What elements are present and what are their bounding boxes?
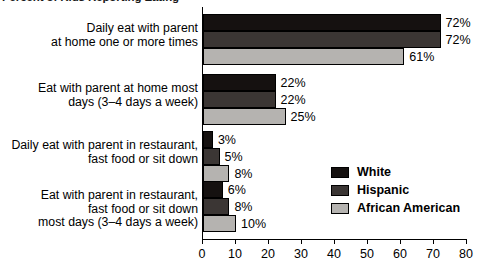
x-tick-label-50: 50: [360, 247, 374, 261]
x-tick-label-20: 20: [261, 247, 275, 261]
bar-value-group3-series0: 6%: [228, 183, 246, 197]
bar-group3-series2: [203, 215, 236, 232]
bar-value-group0-series2: 61%: [409, 50, 434, 64]
bar-group2-series1: [203, 148, 220, 165]
bar-value-group3-series1: 8%: [234, 200, 252, 214]
legend-label-white: White: [357, 165, 391, 179]
legend-item-hispanic: Hispanic: [331, 181, 460, 199]
legend-item-african-american: African American: [331, 199, 460, 217]
bar-group1-series1: [203, 91, 276, 108]
bar-value-group1-series0: 22%: [281, 76, 306, 90]
bar-group2-series0: [203, 131, 213, 148]
bar-value-group2-series0: 3%: [218, 133, 236, 147]
x-tick-60: [400, 239, 401, 244]
x-tick-label-30: 30: [294, 247, 308, 261]
bar-value-group0-series0: 72%: [446, 16, 471, 30]
category-label-2: Daily eat with parent in restaurant, fas…: [11, 139, 198, 166]
bar-value-group2-series1: 5%: [225, 150, 243, 164]
bar-group1-series0: [203, 74, 276, 91]
x-tick-label-40: 40: [327, 247, 341, 261]
x-tick-20: [268, 239, 269, 244]
x-tick-label-0: 0: [199, 247, 206, 261]
legend-item-white: White: [331, 163, 460, 181]
legend-swatch-icon-hispanic: [331, 185, 349, 196]
bar-value-group2-series2: 8%: [234, 167, 252, 181]
category-label-3: Eat with parent in restaurant, fast food…: [38, 189, 198, 230]
bar-value-group0-series1: 72%: [446, 33, 471, 47]
legend-swatch-icon-white: [331, 167, 349, 178]
category-label-0: Daily eat with parent at home one or mor…: [51, 22, 198, 49]
bar-group3-series0: [203, 181, 223, 198]
bar-value-group1-series2: 25%: [291, 110, 316, 124]
x-tick-0: [202, 239, 203, 244]
bar-group0-series0: [203, 14, 441, 31]
x-tick-40: [334, 239, 335, 244]
bar-value-group1-series1: 22%: [281, 93, 306, 107]
x-tick-10: [235, 239, 236, 244]
x-tick-70: [433, 239, 434, 244]
x-tick-80: [466, 239, 467, 244]
x-tick-label-60: 60: [393, 247, 407, 261]
x-tick-label-70: 70: [426, 247, 440, 261]
bar-group3-series1: [203, 198, 229, 215]
x-tick-label-10: 10: [228, 247, 242, 261]
chart-title: Percent of Kids Reporting Eating: [2, 0, 179, 3]
x-tick-30: [301, 239, 302, 244]
category-label-1: Eat with parent at home most days (3–4 d…: [38, 82, 198, 109]
bar-group1-series2: [203, 108, 286, 125]
bar-group0-series1: [203, 31, 441, 48]
legend-label-african-american: African American: [357, 201, 460, 215]
bar-group2-series2: [203, 165, 229, 182]
legend-swatch-icon-african-american: [331, 203, 349, 214]
x-tick-label-80: 80: [459, 247, 473, 261]
bar-value-group3-series2: 10%: [241, 217, 266, 231]
bar-group0-series2: [203, 48, 404, 65]
legend: White Hispanic African American: [331, 163, 460, 217]
legend-label-hispanic: Hispanic: [357, 183, 409, 197]
x-tick-50: [367, 239, 368, 244]
